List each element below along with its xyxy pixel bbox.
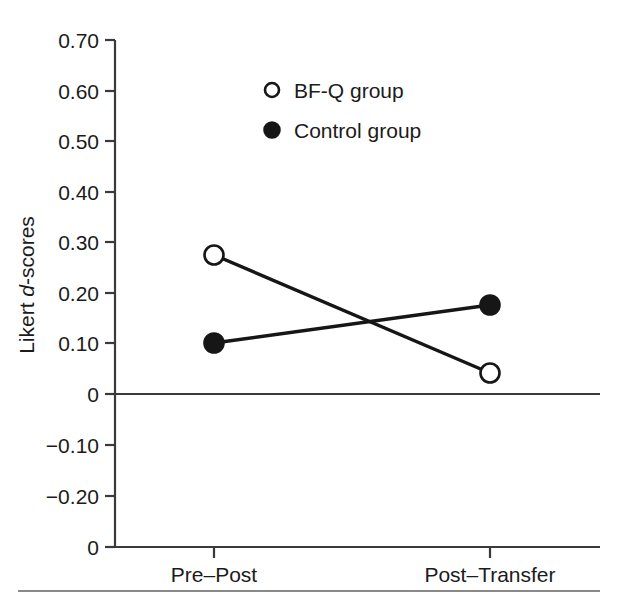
series-bfq-segment (214, 255, 490, 373)
y-tick-label: 0.40 (58, 181, 99, 204)
data-point-bfq-post-transfer (481, 364, 500, 383)
series-bfq-group (205, 246, 500, 383)
y-tick-label: 0.50 (58, 130, 99, 153)
legend-label-control-group: Control group (294, 119, 421, 142)
y-axis-title-tail: -scores (15, 216, 38, 285)
chart-legend: BF-Q group Control group (265, 79, 422, 142)
data-point-control-pre-post (205, 334, 224, 353)
legend-marker-filled-circle-icon (265, 123, 280, 138)
series-control-segment (214, 305, 490, 343)
x-tick-labels: Pre–Post Post–Transfer (171, 563, 556, 586)
legend-label-bfq-group: BF-Q group (294, 79, 404, 102)
line-chart: Likert d-scores 0.70 0.60 0.50 0.40 0.30… (0, 0, 618, 609)
y-tick-label: 0.60 (58, 80, 99, 103)
y-tick-label: 0.10 (58, 332, 99, 355)
data-point-control-post-transfer (481, 296, 500, 315)
y-tick-label: 0.20 (58, 282, 99, 305)
y-tick-label: 0.30 (58, 231, 99, 254)
y-axis-title-plain: Likert (15, 297, 38, 354)
figure-container: Likert d-scores 0.70 0.60 0.50 0.40 0.30… (0, 0, 618, 609)
y-tick-labels: 0.70 0.60 0.50 0.40 0.30 0.20 0.10 0 −0.… (46, 29, 99, 559)
y-axis-title: Likert d-scores (15, 216, 38, 354)
y-tick-label: −0.10 (46, 434, 99, 457)
data-point-bfq-pre-post (205, 246, 224, 265)
y-tick-label: 0 (87, 383, 99, 406)
legend-marker-open-circle-icon (265, 83, 279, 97)
x-tick-marks (214, 547, 490, 558)
x-tick-label-pre-post: Pre–Post (171, 563, 258, 586)
y-tick-label: 0.70 (58, 29, 99, 52)
series-control-group (205, 296, 500, 353)
y-tick-marks (105, 40, 115, 547)
y-tick-label: −0.20 (46, 485, 99, 508)
y-tick-label: 0 (87, 536, 99, 559)
x-tick-label-post-transfer: Post–Transfer (424, 563, 555, 586)
